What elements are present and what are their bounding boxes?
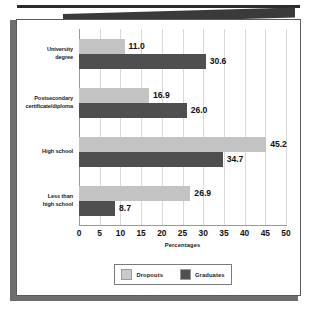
bar-value-label: 45.2 <box>270 137 287 152</box>
bar-dropouts-3 <box>79 186 190 201</box>
legend-swatch-icon <box>180 269 191 280</box>
category-label-0: University degree <box>47 46 73 60</box>
x-axis-tick-labels: 05101520253035404550 <box>79 228 286 242</box>
legend-swatch-icon <box>121 269 132 280</box>
gridline <box>245 29 246 225</box>
bar-value-label: 16.9 <box>153 88 170 103</box>
x-tick-0: 0 <box>77 228 82 238</box>
x-tick-50: 50 <box>281 228 290 238</box>
x-axis-line <box>79 225 287 226</box>
category-label-1: Postsecondary certificate/diploma <box>25 95 73 109</box>
bar-value-label: 8.7 <box>119 201 131 216</box>
legend-label: Graduates <box>195 272 225 278</box>
x-tick-30: 30 <box>199 228 208 238</box>
legend-label: Dropouts <box>136 272 163 278</box>
bar-value-label: 26.0 <box>191 103 208 118</box>
chart-card: 11.030.616.926.045.234.726.98.7 Universi… <box>16 19 301 296</box>
x-tick-10: 10 <box>116 228 125 238</box>
bar-graduates-3 <box>79 201 115 216</box>
x-tick-25: 25 <box>178 228 187 238</box>
gridline <box>265 29 266 225</box>
x-tick-40: 40 <box>240 228 249 238</box>
category-label-2: High school <box>42 148 73 155</box>
gridline <box>286 29 287 225</box>
x-tick-15: 15 <box>136 228 145 238</box>
bar-graduates-1 <box>79 103 187 118</box>
legend-item-graduates[interactable]: Graduates <box>180 269 225 280</box>
bar-value-label: 26.9 <box>194 186 211 201</box>
chart-legend: DropoutsGraduates <box>114 264 232 285</box>
x-tick-20: 20 <box>157 228 166 238</box>
x-tick-5: 5 <box>97 228 102 238</box>
x-tick-35: 35 <box>219 228 228 238</box>
bar-dropouts-0 <box>79 39 125 54</box>
bar-graduates-2 <box>79 152 223 167</box>
category-label-3: Less than high school <box>43 193 73 207</box>
legend-item-dropouts[interactable]: Dropouts <box>121 269 163 280</box>
bar-value-label: 11.0 <box>129 39 145 54</box>
chart-figure: 11.030.616.926.045.234.726.98.7 Universi… <box>0 0 315 318</box>
bar-value-label: 34.7 <box>227 152 244 167</box>
bar-dropouts-1 <box>79 88 149 103</box>
x-axis-title: Percentages <box>79 242 286 248</box>
plot-wrapper: 11.030.616.926.045.234.726.98.7 Universi… <box>17 20 302 297</box>
plot-area: 11.030.616.926.045.234.726.98.7 <box>79 29 286 225</box>
bar-value-label: 30.6 <box>210 54 227 69</box>
category-axis-labels: University degreePostsecondary certifica… <box>17 29 76 225</box>
x-tick-45: 45 <box>261 228 270 238</box>
bar-graduates-0 <box>79 54 206 69</box>
bar-dropouts-2 <box>79 137 266 152</box>
